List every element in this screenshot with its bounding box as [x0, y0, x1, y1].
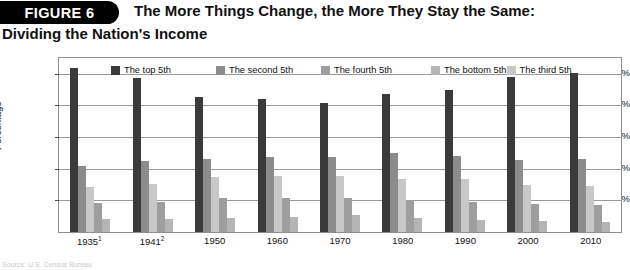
x-axis-tick-label: 19412: [121, 235, 184, 251]
x-axis-label-footnote-mark: 2: [161, 235, 165, 242]
figure-header: FIGURE 6 The More Things Change, the Mor…: [0, 0, 630, 52]
legend-label: The bottom 5th: [444, 66, 507, 75]
legend-label: The fourth 5th: [334, 66, 392, 75]
bar: [477, 220, 485, 232]
x-axis-tick-label: 2010: [559, 235, 622, 251]
legend-swatch: [431, 66, 440, 75]
bar: [290, 217, 298, 232]
legend-item: The fourth 5th: [321, 66, 431, 75]
bar: [390, 153, 398, 232]
bar: [70, 68, 78, 232]
y-axis-title: Percentage: [0, 101, 3, 150]
x-axis-tick-label: 1970: [309, 235, 372, 251]
bar: [133, 78, 141, 232]
bar: [406, 200, 414, 232]
legend-swatch: [321, 66, 330, 75]
bar: [141, 161, 149, 232]
bar: [195, 97, 203, 232]
bar: [336, 176, 344, 232]
bar: [523, 185, 531, 232]
bar: [539, 221, 547, 232]
chart-legend: The top 5thThe second 5thThe fourth 5thT…: [111, 64, 461, 92]
bar: [515, 160, 523, 232]
legend-item: The bottom 5th: [431, 66, 507, 75]
figure-badge: FIGURE 6: [0, 1, 119, 24]
x-axis-tick-label: 1950: [183, 235, 246, 251]
bar: [398, 179, 406, 232]
figure-title-line-2: Dividing the Nation's Income: [2, 25, 207, 42]
bar: [94, 203, 102, 232]
bar: [507, 77, 515, 232]
legend-swatch: [216, 66, 225, 75]
bar: [531, 204, 539, 232]
legend-label: The third 5th: [520, 66, 572, 75]
x-axis-label-footnote-mark: 1: [98, 235, 102, 242]
x-axis-tick-label: 2000: [497, 235, 560, 251]
bar: [469, 202, 477, 232]
bar-group: [496, 58, 558, 232]
bar: [570, 73, 578, 232]
bar: [274, 176, 282, 232]
bar: [414, 218, 422, 232]
bar: [382, 94, 390, 232]
legend-swatch: [111, 66, 120, 75]
legend-label: The top 5th: [124, 66, 171, 75]
bar: [102, 219, 110, 232]
chart-container: Percentage 10%20%30%40%50% The top 5thTh…: [0, 52, 630, 252]
bar: [602, 222, 610, 232]
bar: [320, 103, 328, 232]
figure-badge-label: FIGURE 6: [24, 5, 94, 21]
bar: [149, 184, 157, 232]
source-footnote: Source: U.S. Census Bureau: [2, 261, 92, 268]
legend-item: The top 5th: [111, 66, 216, 75]
x-axis-tick-label: 1980: [371, 235, 434, 251]
bar: [453, 156, 461, 232]
bar: [352, 215, 360, 232]
bar: [211, 177, 219, 232]
bar: [594, 205, 602, 232]
x-axis-labels: 19351194121950196019701980199020002010: [58, 235, 622, 251]
bar: [445, 90, 453, 232]
bar: [461, 179, 469, 232]
x-axis-tick-label: 1960: [246, 235, 309, 251]
legend-swatch: [507, 66, 516, 75]
bar: [258, 99, 266, 232]
plot-area: The top 5thThe second 5thThe fourth 5thT…: [58, 57, 622, 233]
legend-label: The second 5th: [229, 66, 293, 75]
bar: [266, 157, 274, 232]
bar: [282, 198, 290, 232]
x-axis-tick-label: 19351: [58, 235, 121, 251]
x-axis-tick-label: 1990: [434, 235, 497, 251]
figure-title-line-1: The More Things Change, the More They St…: [134, 2, 535, 19]
bar: [86, 187, 94, 232]
bar: [586, 186, 594, 232]
legend-item: The second 5th: [216, 66, 321, 75]
bar: [219, 198, 227, 232]
bar: [157, 202, 165, 232]
bar: [227, 218, 235, 232]
bar: [344, 198, 352, 232]
bar-group: [559, 58, 621, 232]
bar: [78, 166, 86, 232]
legend-item: The third 5th: [507, 66, 572, 75]
bar: [165, 219, 173, 232]
bar: [578, 159, 586, 232]
bar: [328, 157, 336, 232]
bar: [203, 159, 211, 232]
